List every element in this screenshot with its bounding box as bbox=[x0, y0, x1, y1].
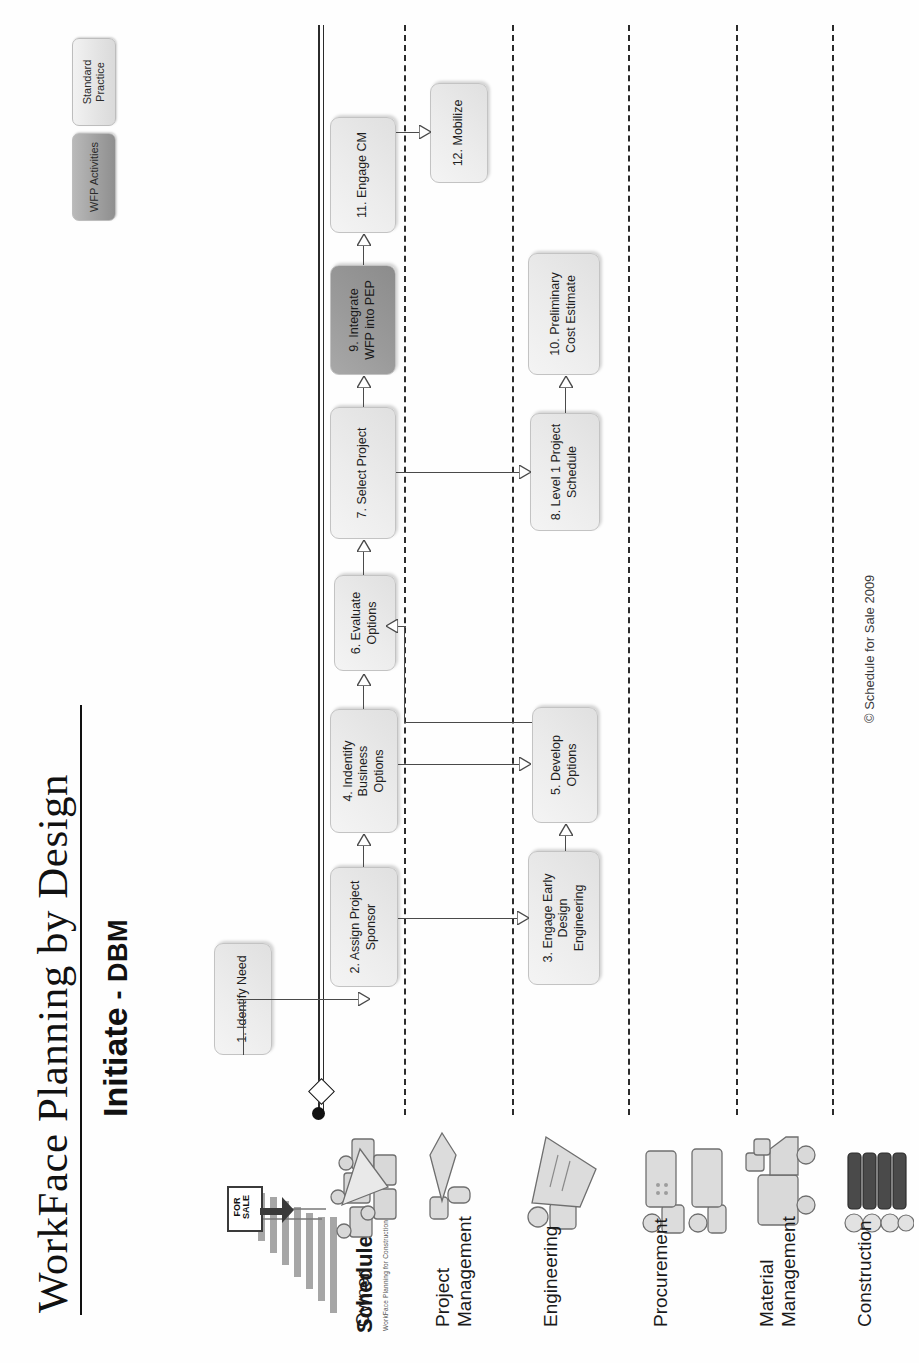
lane-divider-procurement-material bbox=[736, 25, 738, 1115]
diagram-sheet: WorkFace Planning by Design Initiate - D… bbox=[0, 0, 919, 1363]
arrowhead-7-8 bbox=[519, 465, 531, 479]
subtitle-method: DBM bbox=[103, 919, 133, 982]
arrowhead-7-9 bbox=[357, 376, 371, 388]
connector-7-8-vertical bbox=[396, 472, 522, 473]
subtitle-phase: Initiate bbox=[96, 1007, 134, 1117]
connector-4-5-vertical bbox=[398, 764, 522, 765]
connector-1-2-horizontal bbox=[243, 999, 244, 1055]
node-5-label: 5. Develop Options bbox=[549, 712, 580, 818]
node-8-level-1-project-schedule[interactable]: 8. Level 1 Project Schedule bbox=[530, 413, 600, 531]
connector-8-10 bbox=[565, 387, 566, 413]
connector-5-6-top bbox=[404, 627, 405, 723]
node-8-label: 8. Level 1 Project Schedule bbox=[549, 424, 580, 521]
legend-item-standard-practice: Standard Practice bbox=[72, 38, 116, 126]
person-drafting-icon bbox=[524, 1127, 604, 1233]
start-node-diamond bbox=[308, 1078, 335, 1105]
node-12-label: 12. Mobilize bbox=[451, 100, 467, 167]
connector-2-4 bbox=[363, 845, 364, 867]
node-9-label: 9. Integrate WFP into PEP bbox=[347, 280, 378, 360]
arrowhead-8-10 bbox=[559, 376, 573, 388]
handshake-icon bbox=[420, 1127, 478, 1225]
node-7-label: 7. Select Project bbox=[355, 428, 371, 519]
arrowhead-3-5 bbox=[559, 824, 573, 836]
arrowhead-2-3 bbox=[517, 911, 529, 925]
subtitle-separator: - bbox=[103, 982, 133, 1008]
node-11-label: 11. Engage CM bbox=[355, 132, 371, 218]
legend: WFP Activities Standard Practice bbox=[72, 38, 116, 221]
lane-boundary-top-inner bbox=[323, 25, 324, 1115]
swimlane-label-project-management: Project Management bbox=[432, 1216, 476, 1327]
crew-workers-icon bbox=[842, 1127, 914, 1243]
lane-boundary-top bbox=[318, 25, 320, 1115]
node-6-label: 6. Evaluate Options bbox=[349, 592, 380, 655]
swimlane-label-construction: Construction bbox=[854, 1220, 876, 1327]
page-subtitle: Initiate - DBM bbox=[96, 919, 135, 1117]
connector-7-9 bbox=[363, 387, 364, 407]
sign-line-2: SALE bbox=[242, 1191, 251, 1223]
people-group-icon bbox=[330, 1127, 402, 1245]
node-9-integrate-wfp-into-pep[interactable]: 9. Integrate WFP into PEP bbox=[330, 265, 396, 375]
swimlane-label-procurement: Procurement bbox=[650, 1218, 672, 1327]
arrowhead-9-11 bbox=[357, 234, 371, 246]
node-7-select-project[interactable]: 7. Select Project bbox=[330, 407, 396, 539]
connector-3-5 bbox=[565, 835, 566, 851]
arrowhead-6-7 bbox=[357, 540, 371, 552]
arrowhead-2-4 bbox=[357, 834, 371, 846]
swimlane-label-owner: Owner bbox=[352, 1271, 374, 1327]
delivery-truck-icon bbox=[744, 1127, 824, 1229]
legend-label-wfp: WFP Activities bbox=[88, 142, 101, 212]
node-5-develop-options[interactable]: 5. Develop Options bbox=[532, 707, 598, 823]
node-2-assign-project-sponsor[interactable]: 2. Assign Project Sponsor bbox=[330, 867, 398, 987]
lane-divider-engineering-procurement bbox=[628, 25, 630, 1115]
connector-6-7 bbox=[363, 551, 364, 575]
node-12-mobilize[interactable]: 12. Mobilize bbox=[430, 83, 488, 183]
copyright-notice: © Schedule for Sale 2009 bbox=[862, 575, 877, 723]
node-10-preliminary-cost-estimate[interactable]: 10. Preliminary Cost Estimate bbox=[528, 253, 600, 375]
arrowhead-4-6 bbox=[357, 674, 371, 686]
node-11-engage-cm[interactable]: 11. Engage CM bbox=[330, 117, 396, 233]
connector-5-6-vertical bbox=[404, 722, 532, 723]
for-sale-sign-text: FOR SALE bbox=[233, 1191, 252, 1223]
swimlane-label-engineering: Engineering bbox=[540, 1226, 562, 1327]
arrowhead-11-12 bbox=[419, 125, 431, 139]
node-4-label: 4. Indentify Business Options bbox=[341, 714, 388, 828]
swimlane-label-material-management: Material Management bbox=[756, 1216, 800, 1327]
connector-1-2-vertical bbox=[243, 999, 361, 1000]
arrowhead-5-6 bbox=[386, 619, 398, 633]
lane-divider-owner-pm bbox=[404, 25, 406, 1115]
title-underline bbox=[80, 705, 82, 1315]
arrowhead-4-5 bbox=[519, 757, 531, 771]
node-3-label: 3. Engage Early Design Engineering bbox=[541, 856, 588, 980]
connector-4-6 bbox=[363, 685, 364, 709]
node-10-label: 10. Preliminary Cost Estimate bbox=[548, 272, 579, 355]
connector-2-3-vertical bbox=[398, 918, 520, 919]
arrowhead-1-2 bbox=[358, 992, 370, 1006]
page-title: WorkFace Planning by Design bbox=[28, 774, 77, 1313]
legend-item-wfp-activities: WFP Activities bbox=[72, 133, 116, 221]
node-2-label: 2. Assign Project Sponsor bbox=[348, 880, 379, 973]
node-3-engage-early-design-engineering[interactable]: 3. Engage Early Design Engineering bbox=[528, 851, 600, 985]
lane-divider-pm-engineering bbox=[512, 25, 514, 1115]
start-node-dot bbox=[312, 1107, 325, 1120]
diagram-page: WorkFace Planning by Design Initiate - D… bbox=[0, 0, 919, 1363]
node-4-identify-business-options[interactable]: 4. Indentify Business Options bbox=[330, 709, 398, 833]
lane-divider-material-construction bbox=[832, 25, 834, 1115]
connector-9-11 bbox=[363, 245, 364, 265]
legend-label-standard: Standard Practice bbox=[81, 39, 107, 125]
